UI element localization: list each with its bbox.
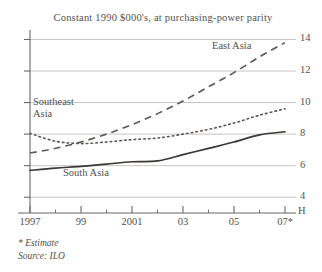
series-label-southeast-asia: Southeast Asia	[33, 96, 74, 120]
series-label-east-asia: East Asia	[212, 40, 251, 52]
footnote-estimate: * Estimate	[18, 238, 58, 248]
footnote-source: Source: ILO	[18, 251, 65, 261]
x-tick-label: 03	[158, 216, 208, 227]
y-tick-label: 10	[300, 96, 322, 107]
y-axis-ticks	[24, 39, 30, 197]
x-axis-ticks	[30, 206, 285, 213]
x-tick-label: 2001	[107, 216, 157, 227]
y-tick-label: 14	[300, 32, 322, 43]
x-tick-label: 05	[209, 216, 259, 227]
y-tick-label: 6	[300, 159, 322, 170]
chart-figure: Constant 1990 $000's, at purchasing-powe…	[0, 0, 322, 272]
axis-lines	[18, 30, 296, 213]
y-axis-unit-label: H	[298, 205, 306, 216]
y-tick-label: 8	[300, 127, 322, 138]
chart-plot-area	[0, 0, 322, 272]
x-tick-label: 1997	[5, 216, 55, 227]
y-tick-label: 12	[300, 64, 322, 75]
series-label-south-asia: South Asia	[63, 167, 109, 179]
y-tick-label: 4	[300, 190, 322, 201]
x-tick-label: 07*	[260, 216, 310, 227]
x-tick-label: 99	[56, 216, 106, 227]
